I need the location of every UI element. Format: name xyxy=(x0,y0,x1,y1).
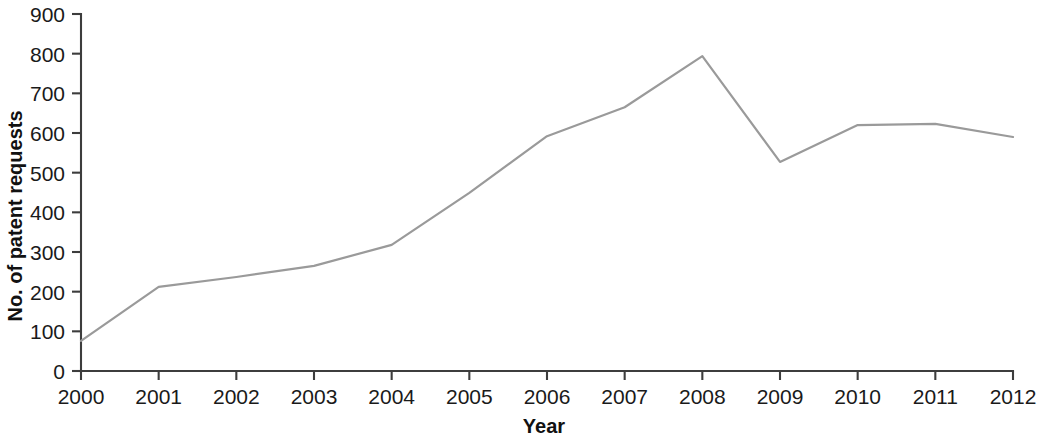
y-tick-label: 900 xyxy=(30,3,65,26)
x-tick-label: 2012 xyxy=(990,385,1037,408)
y-tick-label: 400 xyxy=(30,201,65,224)
x-tick-label: 2000 xyxy=(58,385,105,408)
y-axis-title: No. of patent requests xyxy=(4,110,26,321)
y-tick-label: 600 xyxy=(30,122,65,145)
y-tick-label: 800 xyxy=(30,43,65,66)
y-axis-tick-marks xyxy=(72,14,81,371)
x-tick-label: 2011 xyxy=(913,385,958,408)
y-tick-label: 200 xyxy=(30,281,65,304)
x-tick-label: 2009 xyxy=(757,385,804,408)
y-tick-label: 500 xyxy=(30,162,65,185)
x-tick-label: 2008 xyxy=(679,385,726,408)
chart-canvas: No. of patent requests 01002003004005006… xyxy=(0,0,1047,440)
line-chart-figure: No. of patent requests 01002003004005006… xyxy=(0,0,1047,440)
x-tick-label: 2007 xyxy=(601,385,648,408)
x-tick-label: 2010 xyxy=(834,385,881,408)
y-tick-label: 100 xyxy=(30,320,65,343)
y-tick-label: 300 xyxy=(30,241,65,264)
y-tick-label: 700 xyxy=(30,82,65,105)
x-tick-label: 2001 xyxy=(135,385,182,408)
y-tick-label: 0 xyxy=(53,360,65,383)
x-axis-tick-labels: 2000200120022003200420052006200720082009… xyxy=(58,385,1037,408)
y-axis-tick-labels: 0100200300400500600700800900 xyxy=(30,3,65,383)
x-axis-title: Year xyxy=(523,415,565,437)
x-tick-label: 2005 xyxy=(446,385,493,408)
x-tick-label: 2004 xyxy=(368,385,415,408)
x-tick-label: 2003 xyxy=(291,385,338,408)
x-axis-tick-marks xyxy=(81,371,1013,380)
x-tick-label: 2002 xyxy=(213,385,260,408)
data-series-line xyxy=(81,56,1013,341)
x-tick-label: 2006 xyxy=(524,385,571,408)
